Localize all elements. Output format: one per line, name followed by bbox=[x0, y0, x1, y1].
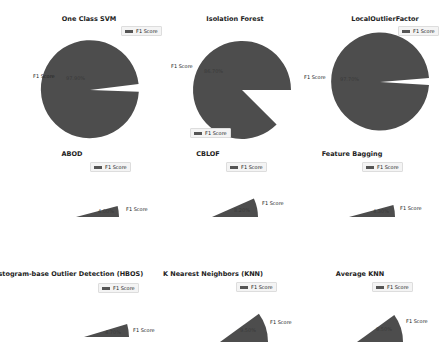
legend-label: F1 Score bbox=[241, 164, 263, 170]
chart-title: Average KNN bbox=[336, 270, 384, 278]
legend-swatch bbox=[125, 30, 133, 33]
legend-label: F1 Score bbox=[105, 164, 127, 170]
wedge-label: F1 Score bbox=[400, 205, 422, 211]
legend-label: F1 Score bbox=[377, 164, 399, 170]
chart-title: ABOD bbox=[62, 150, 83, 158]
legend-swatch bbox=[194, 132, 202, 135]
legend-label: F1 Score bbox=[113, 285, 135, 291]
pie-isolation-forest bbox=[192, 40, 292, 140]
chart-title: CBLOF bbox=[196, 150, 220, 158]
legend: F1 Score bbox=[190, 128, 231, 138]
wedge-label: F1 Score bbox=[262, 200, 284, 206]
chart-title: Histogram-base Outlier Detection (HBOS) bbox=[0, 270, 143, 278]
pie-one-class-svm bbox=[40, 40, 140, 140]
value-label: 97.70% bbox=[340, 76, 359, 82]
wedge-label: F1 Score bbox=[406, 318, 428, 324]
value-label: 8.20% bbox=[234, 207, 250, 213]
chart-title: Isolation Forest bbox=[206, 15, 263, 23]
chart-title: K Nearest Neighbors (KNN) bbox=[163, 270, 263, 278]
legend-swatch bbox=[230, 166, 238, 169]
chart-title: Feature Bagging bbox=[322, 150, 383, 158]
pie-local-outlier-factor bbox=[330, 32, 430, 132]
value-label: 97.90% bbox=[66, 75, 85, 81]
chart-title: LocalOutlierFactor bbox=[351, 15, 418, 23]
wedge-label: F1 Score bbox=[126, 206, 148, 212]
legend: F1 Score bbox=[372, 282, 413, 292]
legend-label: F1 Score bbox=[205, 130, 227, 136]
legend-label: F1 Score bbox=[387, 284, 409, 290]
wedge-label: F1 Score bbox=[33, 73, 55, 79]
legend: F1 Score bbox=[362, 162, 403, 172]
legend-label: F1 Score bbox=[136, 28, 158, 34]
legend-swatch bbox=[240, 286, 248, 289]
wedge-label: F1 Score bbox=[270, 319, 292, 325]
legend: F1 Score bbox=[90, 162, 131, 172]
wedge-label: F1 Score bbox=[171, 63, 193, 69]
wedge-label: F1 Score bbox=[304, 74, 326, 80]
legend-label: F1 Score bbox=[251, 284, 273, 290]
legend: F1 Score bbox=[226, 162, 267, 172]
pie-abod bbox=[76, 200, 136, 230]
chart-title: One Class SVM bbox=[62, 15, 116, 23]
value-label: 4.30% bbox=[373, 208, 389, 214]
value-label: 4.00% bbox=[98, 208, 114, 214]
value-label: 9.50% bbox=[376, 326, 392, 332]
legend-swatch bbox=[366, 166, 374, 169]
value-label: 4.70% bbox=[105, 329, 121, 335]
legend: F1 Score bbox=[236, 282, 277, 292]
wedge-label: F1 Score bbox=[133, 327, 155, 333]
legend-swatch bbox=[94, 166, 102, 169]
pie-feature-bagging bbox=[349, 199, 409, 229]
value-label: 9.50% bbox=[240, 327, 256, 333]
legend-swatch bbox=[102, 287, 110, 290]
value-label: 86.70% bbox=[204, 68, 223, 74]
legend-swatch bbox=[376, 286, 384, 289]
legend: F1 Score bbox=[121, 26, 162, 36]
legend: F1 Score bbox=[98, 283, 139, 293]
